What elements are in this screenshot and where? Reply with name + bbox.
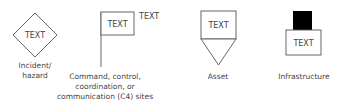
asset-caption: Asset: [193, 72, 243, 82]
caption-line: Asset: [193, 72, 243, 82]
asset-triangle: [201, 39, 236, 65]
symbol-legend-diagram: TEXT TEXT TEXT TEXT TEXT: [0, 0, 341, 108]
infrastructure-inner-text: TEXT: [292, 39, 313, 48]
c4-side-text: TEXT: [138, 12, 159, 21]
asset-symbol: TEXT: [201, 11, 236, 65]
infrastructure-black-square: [293, 11, 312, 30]
caption-line: Infrastructure: [274, 72, 334, 82]
caption-line: coordination, or: [55, 82, 155, 92]
incident-caption: Incident/ hazard: [10, 61, 60, 81]
caption-line: Command, control,: [55, 72, 155, 82]
caption-line: hazard: [10, 71, 60, 81]
infrastructure-caption: Infrastructure: [274, 72, 334, 82]
caption-line: Incident/: [10, 61, 60, 71]
c4-sites-symbol: TEXT TEXT: [101, 12, 159, 67]
asset-inner-text: TEXT: [207, 21, 228, 30]
infrastructure-symbol: TEXT: [286, 11, 321, 55]
incident-hazard-symbol: TEXT: [13, 13, 57, 57]
caption-line: communication (C4) sites: [55, 92, 155, 102]
c4-sites-caption: Command, control, coordination, or commu…: [55, 72, 155, 102]
c4-inner-text: TEXT: [106, 20, 127, 29]
incident-inner-text: TEXT: [24, 31, 45, 40]
